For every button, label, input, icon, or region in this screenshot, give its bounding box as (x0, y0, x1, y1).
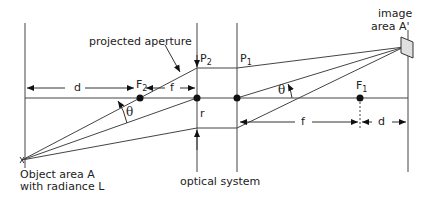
projected-aperture-label: projected aperture (89, 36, 192, 48)
image-area-label-line2: area A' (371, 21, 410, 33)
f-right-label: f (301, 116, 305, 128)
p1-axis-point (234, 95, 241, 102)
object-area-label-line2: with radiance L (20, 181, 104, 193)
p1-label: P1 (240, 53, 252, 66)
f2-label: F2 (136, 79, 147, 92)
f2-point (137, 95, 144, 102)
optical-system-label: optical system (180, 176, 260, 188)
theta-right-label: θ (278, 84, 285, 96)
r-label: r (200, 108, 205, 120)
p2-label: P2 (200, 53, 212, 66)
f1-point (357, 95, 364, 102)
f-left-label: f (170, 82, 174, 94)
d-right-label: d (378, 116, 385, 128)
image-area-label-line1: image (378, 8, 412, 20)
f1-label: F1 (356, 80, 367, 93)
theta-left-label: θ (126, 106, 133, 118)
p2-axis-point (194, 95, 201, 102)
image-area-box (401, 37, 413, 58)
d-left-label: d (74, 82, 81, 94)
